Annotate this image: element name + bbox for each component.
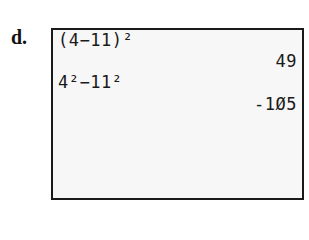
expression-2: 4²−11² bbox=[58, 72, 122, 92]
expression-1: (4−11)² bbox=[58, 30, 133, 50]
problem-label: d. bbox=[11, 26, 27, 49]
result-2: -1Ø5 bbox=[254, 94, 297, 114]
calculator-screen: (4−11)² 49 4²−11² -1Ø5 bbox=[51, 28, 304, 200]
result-1: 49 bbox=[276, 51, 297, 71]
